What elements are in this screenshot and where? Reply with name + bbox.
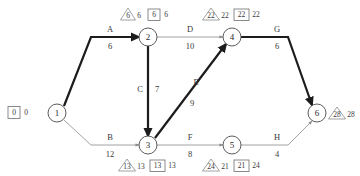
node-tag-layer: 0 0 6 6 6 6 22 22 bbox=[8, 8, 355, 172]
edge-E-3-to-4 bbox=[155, 44, 226, 138]
node-3[interactable]: 3 bbox=[139, 136, 157, 154]
tag-node-3-triangle: 13 13 bbox=[119, 159, 146, 171]
tag-node-4-box-left: 22 bbox=[238, 10, 246, 19]
node-1[interactable]: 1 bbox=[48, 104, 66, 122]
activity-H-duration: 4 bbox=[275, 149, 280, 159]
tag-node-4-box: 22 22 bbox=[234, 9, 260, 21]
tag-node-4-triangle: 22 22 bbox=[203, 8, 230, 20]
activity-B-duration: 12 bbox=[106, 149, 115, 159]
node-5[interactable]: 5 bbox=[223, 136, 241, 154]
tag-node-5-box-left: 21 bbox=[238, 161, 246, 170]
tag-node-2-triangle: 6 6 bbox=[121, 8, 142, 20]
node-5-label: 5 bbox=[230, 140, 235, 150]
activity-G-duration: 6 bbox=[275, 41, 279, 51]
tag-node-1-box: 0 0 bbox=[8, 107, 28, 119]
tag-node-4-box-right: 22 bbox=[252, 10, 260, 19]
activity-D-duration: 10 bbox=[186, 41, 195, 51]
tag-node-6-triangle: 28 28 bbox=[329, 107, 356, 119]
node-4-label: 4 bbox=[230, 32, 235, 42]
tag-node-5-box: 21 24 bbox=[234, 160, 260, 172]
tag-node-1-box-right: 0 bbox=[24, 108, 28, 117]
activity-F-name: F bbox=[188, 132, 193, 142]
tag-node-3-tri-right: 13 bbox=[137, 162, 145, 171]
activity-H-name: H bbox=[274, 132, 280, 142]
edge-A-1-to-2 bbox=[64, 37, 139, 106]
tag-node-2-tri-left: 6 bbox=[126, 11, 130, 20]
edge-B-1-to-3 bbox=[64, 120, 139, 145]
tag-node-2-box-right: 6 bbox=[164, 10, 168, 19]
node-6[interactable]: 6 bbox=[308, 104, 326, 122]
tag-node-6-tri-left: 28 bbox=[333, 110, 341, 119]
node-2[interactable]: 2 bbox=[139, 28, 157, 46]
activity-C-duration: 7 bbox=[155, 84, 159, 94]
activity-C-name: C bbox=[137, 84, 143, 94]
node-6-label: 6 bbox=[315, 108, 320, 118]
network-diagram-canvas: A 6 B 12 C 7 D 10 E 9 F 8 G 6 H 4 1 bbox=[0, 0, 360, 176]
tag-node-5-tri-left: 24 bbox=[207, 162, 215, 171]
tag-node-2-box: 6 6 bbox=[148, 9, 168, 21]
network-diagram: A 6 B 12 C 7 D 10 E 9 F 8 G 6 H 4 1 bbox=[0, 0, 360, 176]
tag-node-3-box-right: 13 bbox=[168, 161, 176, 170]
tag-node-5-triangle: 24 21 bbox=[203, 159, 230, 171]
node-1-label: 1 bbox=[55, 108, 60, 118]
tag-node-3-tri-left: 13 bbox=[123, 162, 131, 171]
node-2-label: 2 bbox=[146, 32, 151, 42]
activity-G-name: G bbox=[274, 24, 280, 34]
node-3-label: 3 bbox=[146, 140, 151, 150]
tag-node-2-tri-right: 6 bbox=[137, 11, 141, 20]
activity-E-duration: 9 bbox=[190, 98, 194, 108]
activity-F-duration: 8 bbox=[188, 149, 192, 159]
tag-node-2-box-left: 6 bbox=[152, 10, 156, 19]
tag-node-4-tri-right: 22 bbox=[221, 11, 229, 20]
node-4[interactable]: 4 bbox=[223, 28, 241, 46]
tag-node-4-tri-left: 22 bbox=[207, 11, 215, 20]
tag-node-6-tri-right: 28 bbox=[347, 110, 355, 119]
tag-node-1-box-left: 0 bbox=[12, 108, 16, 117]
tag-node-3-box: 13 13 bbox=[150, 160, 176, 172]
activity-D-name: D bbox=[187, 24, 193, 34]
activity-E-name: E bbox=[193, 77, 198, 87]
activity-label-layer: A 6 B 12 C 7 D 10 E 9 F 8 G 6 H 4 bbox=[106, 24, 280, 159]
edge-layer bbox=[64, 37, 312, 145]
activity-B-name: B bbox=[107, 132, 113, 142]
tag-node-5-tri-right: 21 bbox=[221, 162, 229, 171]
tag-node-3-box-left: 13 bbox=[154, 161, 162, 170]
activity-A-duration: 6 bbox=[108, 41, 112, 51]
tag-node-5-box-right: 24 bbox=[252, 161, 260, 170]
activity-A-name: A bbox=[107, 24, 114, 34]
